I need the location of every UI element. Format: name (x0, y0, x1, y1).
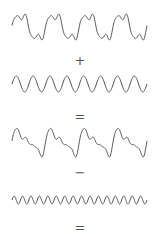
equals-operator-final: = (0, 221, 160, 234)
sine-wave-16 (12, 196, 147, 204)
plus-operator: + (0, 54, 160, 67)
sine-wave-8 (12, 76, 147, 92)
sum-wave (12, 128, 147, 157)
minus-operator: − (0, 166, 160, 179)
complex-wave-a (12, 14, 147, 40)
equals-operator: = (0, 110, 160, 123)
